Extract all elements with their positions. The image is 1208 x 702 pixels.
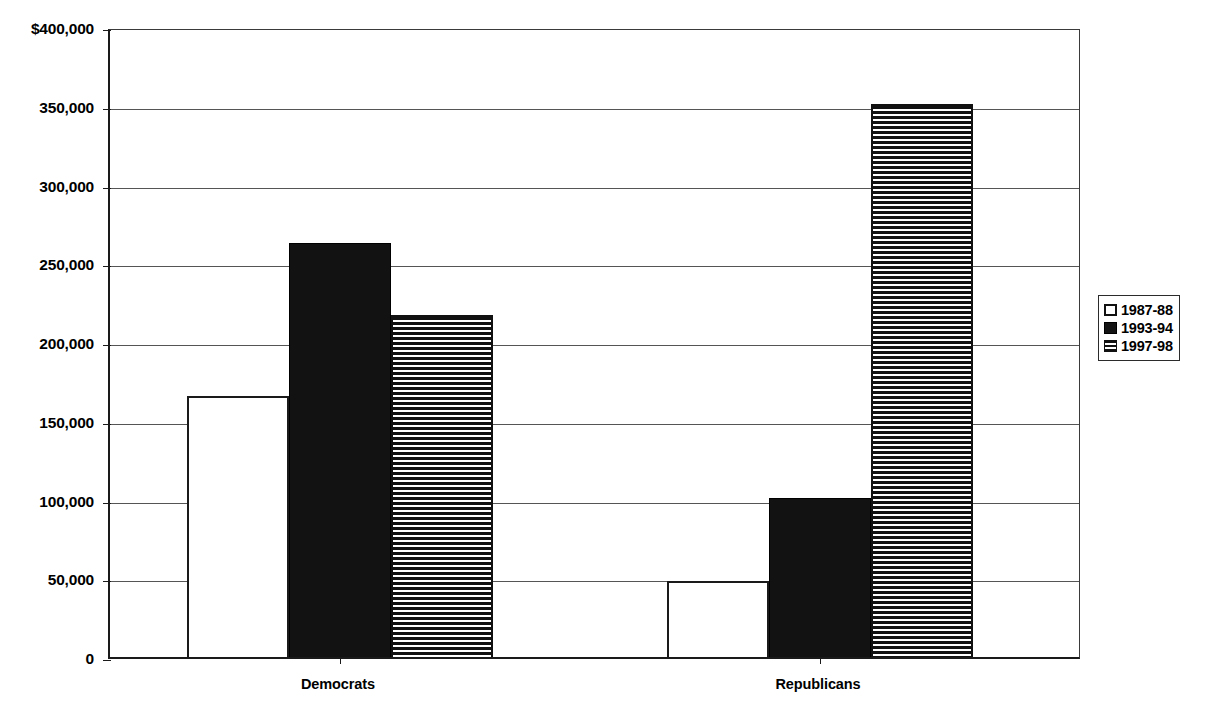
- y-axis-tick: [103, 660, 111, 661]
- legend-item-label: 1993-94: [1121, 321, 1173, 336]
- legend-item-label: 1997-98: [1121, 339, 1173, 354]
- y-axis-tick-label: 150,000: [0, 415, 94, 431]
- y-axis-tick: [103, 266, 111, 267]
- legend-item-label: 1987-88: [1121, 303, 1173, 318]
- y-axis-tick-label: 250,000: [0, 257, 94, 273]
- bar-democrats-1997-98: [391, 315, 493, 657]
- legend-swatch-icon: [1104, 340, 1117, 352]
- x-axis-tick: [820, 656, 821, 664]
- legend-item-1987-88: 1987-88: [1104, 301, 1173, 319]
- bar-republicans-1987-88: [667, 581, 769, 657]
- x-axis-category-label: Democrats: [301, 676, 375, 692]
- bar-republicans-1997-98: [871, 104, 973, 657]
- bar-republicans-1993-94: [769, 498, 871, 657]
- x-axis-tick: [340, 656, 341, 664]
- chart-legend: 1987-881993-941997-98: [1098, 295, 1180, 361]
- y-axis-tick: [103, 503, 111, 504]
- y-axis-tick-label: 0: [0, 651, 94, 667]
- bar-chart: 050,000100,000150,000200,000250,000300,0…: [0, 0, 1208, 702]
- y-axis-tick-label: 100,000: [0, 494, 94, 510]
- y-axis-tick: [103, 30, 111, 31]
- y-axis-tick: [103, 345, 111, 346]
- y-axis-tick: [103, 581, 111, 582]
- legend-item-1997-98: 1997-98: [1104, 337, 1173, 355]
- bar-democrats-1987-88: [187, 396, 289, 657]
- y-axis-tick-label: 300,000: [0, 179, 94, 195]
- x-axis-category-label: Republicans: [775, 676, 860, 692]
- y-axis-tick-label: 50,000: [0, 572, 94, 588]
- y-axis-tick-label: $400,000: [0, 21, 94, 37]
- legend-item-1993-94: 1993-94: [1104, 319, 1173, 337]
- y-axis-tick: [103, 424, 111, 425]
- plot-area: [108, 29, 1080, 659]
- y-axis-labels: 050,000100,000150,000200,000250,000300,0…: [0, 0, 94, 702]
- y-axis-tick: [103, 109, 111, 110]
- y-axis-tick: [103, 188, 111, 189]
- bar-democrats-1993-94: [289, 243, 391, 657]
- y-axis-tick-label: 350,000: [0, 100, 94, 116]
- y-axis-tick-label: 200,000: [0, 336, 94, 352]
- legend-swatch-icon: [1104, 304, 1117, 316]
- legend-swatch-icon: [1104, 322, 1117, 334]
